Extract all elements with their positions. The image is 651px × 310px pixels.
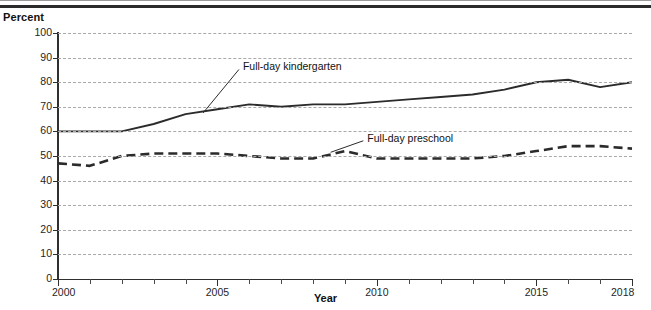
x-tick-mark xyxy=(409,279,410,284)
y-tick-mark xyxy=(53,107,58,108)
chart-figure: Percent Year 0102030405060708090100 2000… xyxy=(0,0,651,310)
x-tick-mark xyxy=(249,279,250,284)
y-tick-label: 90 xyxy=(24,51,52,63)
gridline xyxy=(58,58,632,59)
series-label: Full-day preschool xyxy=(367,132,453,144)
x-tick-label: 2010 xyxy=(365,286,388,298)
x-tick-mark xyxy=(632,279,633,286)
gridline xyxy=(58,107,632,108)
x-tick-mark xyxy=(536,279,537,286)
y-tick-label: 100 xyxy=(24,26,52,38)
y-tick-label: 50 xyxy=(24,149,52,161)
y-tick-label: 70 xyxy=(24,100,52,112)
y-tick-mark xyxy=(53,254,58,255)
x-tick-mark xyxy=(345,279,346,284)
y-tick-label: 40 xyxy=(24,174,52,186)
x-tick-mark xyxy=(122,279,123,284)
x-tick-mark xyxy=(154,279,155,284)
series-label: Full-day kindergarten xyxy=(243,60,342,72)
plot-area xyxy=(58,33,632,279)
x-tick-label: 2018 xyxy=(611,286,634,298)
y-tick-label: 20 xyxy=(24,223,52,235)
gridline xyxy=(58,181,632,182)
x-tick-mark xyxy=(281,279,282,284)
y-tick-mark xyxy=(53,82,58,83)
y-axis-title: Percent xyxy=(3,11,44,23)
x-tick-mark xyxy=(600,279,601,284)
gridline xyxy=(58,254,632,255)
x-tick-mark xyxy=(90,279,91,284)
x-tick-label: 2005 xyxy=(206,286,229,298)
y-tick-mark xyxy=(53,181,58,182)
gridline xyxy=(58,205,632,206)
x-axis-title: Year xyxy=(0,292,651,304)
x-tick-mark xyxy=(58,279,59,286)
y-tick-label: 80 xyxy=(24,75,52,87)
y-tick-label: 10 xyxy=(24,247,52,259)
gridline xyxy=(58,82,632,83)
y-tick-mark xyxy=(53,230,58,231)
y-tick-mark xyxy=(53,131,58,132)
gridline xyxy=(58,230,632,231)
x-tick-mark xyxy=(441,279,442,284)
x-tick-mark xyxy=(568,279,569,284)
series-line xyxy=(58,80,632,132)
x-tick-mark xyxy=(473,279,474,284)
gridline xyxy=(58,131,632,132)
y-tick-label: 60 xyxy=(24,124,52,136)
y-tick-mark xyxy=(53,205,58,206)
y-tick-label: 0 xyxy=(24,272,52,284)
x-tick-mark xyxy=(313,279,314,284)
x-tick-mark xyxy=(217,279,218,286)
x-tick-label: 2000 xyxy=(52,286,75,298)
y-tick-mark xyxy=(53,33,58,34)
x-tick-mark xyxy=(504,279,505,284)
top-hairline xyxy=(0,0,651,1)
x-tick-label: 2015 xyxy=(525,286,548,298)
y-tick-label: 30 xyxy=(24,198,52,210)
y-tick-mark xyxy=(53,58,58,59)
gridline xyxy=(58,33,632,34)
x-tick-mark xyxy=(186,279,187,284)
x-tick-mark xyxy=(377,279,378,286)
gridline xyxy=(58,156,632,157)
y-tick-mark xyxy=(53,156,58,157)
top-rule xyxy=(0,5,651,8)
